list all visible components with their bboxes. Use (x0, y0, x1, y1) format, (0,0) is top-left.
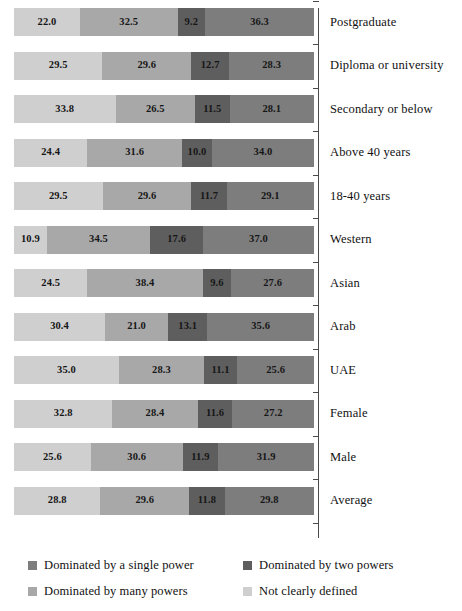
bar-segment-value: 37.0 (249, 234, 268, 245)
bar-segment: 28.3 (229, 52, 314, 80)
bar-segment-value: 24.5 (41, 278, 60, 289)
bar-row: 24.538.49.627.6 (14, 269, 314, 297)
legend-label: Dominated by many powers (44, 584, 188, 599)
bar-segment-value: 29.1 (261, 191, 280, 202)
bar-segment-value: 29.8 (260, 495, 279, 506)
bar-segment: 28.8 (14, 487, 100, 515)
bar-row: 29.529.611.729.1 (14, 182, 314, 210)
bar-row: 10.934.517.637.0 (14, 226, 314, 254)
bar-segment-value: 9.6 (210, 278, 223, 289)
bar-segment-value: 33.8 (55, 104, 74, 115)
bar-segment: 29.6 (103, 182, 192, 210)
bar-segment-value: 11.9 (191, 452, 209, 463)
bar-segment: 34.0 (212, 139, 314, 167)
legend-item[interactable]: Dominated by a single power (28, 556, 194, 574)
bar-segment: 38.4 (87, 269, 202, 297)
category-label: Arab (330, 313, 356, 341)
bar-segment: 31.9 (218, 443, 314, 471)
bar-segment-value: 29.6 (137, 60, 156, 71)
bar-segment: 24.5 (14, 269, 87, 297)
legend-item[interactable]: Dominated by many powers (28, 582, 188, 600)
category-label: Above 40 years (330, 139, 411, 167)
bar-segment-value: 35.6 (251, 321, 270, 332)
bar-segment: 29.5 (14, 52, 102, 80)
legend-swatch-icon (28, 587, 37, 596)
bar-segment-value: 11.5 (203, 104, 221, 115)
stacked-bar-chart: 22.032.59.236.329.529.612.728.333.826.51… (0, 0, 462, 611)
bar-segment-value: 11.6 (206, 408, 224, 419)
category-label: Male (330, 443, 356, 471)
bar-segment-value: 17.6 (167, 234, 186, 245)
bar-segment: 28.1 (230, 95, 314, 123)
bar-segment: 29.8 (225, 487, 314, 515)
bar-segment: 11.6 (198, 400, 233, 428)
axis-tick (313, 479, 319, 480)
bar-segment-value: 31.6 (125, 147, 144, 158)
bar-segment: 32.5 (80, 8, 178, 36)
bar-segment-value: 28.3 (152, 365, 171, 376)
bar-segment-value: 9.2 (185, 17, 198, 28)
axis-tick (313, 218, 319, 219)
axis-tick (313, 44, 319, 45)
category-label: Secondary or below (330, 95, 433, 123)
bar-segment: 13.1 (168, 313, 207, 341)
bar-segment-value: 29.6 (138, 191, 157, 202)
axis-tick (313, 305, 319, 306)
legend-item[interactable]: Dominated by two powers (243, 556, 394, 574)
bar-segment: 10.0 (182, 139, 212, 167)
legend-label: Dominated by two powers (259, 558, 394, 573)
axis-tick (313, 175, 319, 176)
bar-segment: 9.6 (203, 269, 232, 297)
bar-segment: 11.7 (191, 182, 226, 210)
bar-segment-value: 10.9 (21, 234, 40, 245)
bar-segment: 35.6 (207, 313, 314, 341)
bar-segment: 30.6 (91, 443, 183, 471)
axis-tick (313, 88, 319, 89)
category-label: Postgraduate (330, 8, 396, 36)
bar-segment-value: 28.3 (262, 60, 281, 71)
bar-segment: 26.5 (116, 95, 196, 123)
legend-item[interactable]: Not clearly defined (243, 582, 357, 600)
bar-segment: 29.1 (227, 182, 314, 210)
bar-segment: 25.6 (237, 356, 314, 384)
legend-swatch-icon (28, 561, 37, 570)
bar-row: 30.421.013.135.6 (14, 313, 314, 341)
bar-segment: 34.5 (47, 226, 151, 254)
bar-segment-value: 29.5 (49, 191, 68, 202)
bar-segment-value: 29.6 (135, 495, 154, 506)
category-label: Asian (330, 269, 360, 297)
bar-segment-value: 11.7 (200, 191, 218, 202)
bar-segment: 9.2 (178, 8, 206, 36)
bar-segment-value: 38.4 (136, 278, 155, 289)
bar-segment: 22.0 (14, 8, 80, 36)
bar-segment: 21.0 (105, 313, 168, 341)
bar-segment: 27.6 (231, 269, 314, 297)
bar-segment-value: 24.4 (41, 147, 60, 158)
axis-tick (313, 131, 319, 132)
bar-segment: 25.6 (14, 443, 91, 471)
bar-segment-value: 34.0 (254, 147, 273, 158)
category-label: Female (330, 400, 368, 428)
bar-segment-value: 11.8 (198, 495, 216, 506)
bar-segment-value: 12.7 (201, 60, 220, 71)
bar-segment: 11.8 (189, 487, 224, 515)
bar-segment-value: 11.1 (211, 365, 229, 376)
axis-tick (313, 392, 319, 393)
bar-segment-value: 10.0 (188, 147, 207, 158)
bar-row: 28.829.611.829.8 (14, 487, 314, 515)
bar-segment: 11.5 (195, 95, 230, 123)
bar-segment-value: 28.1 (262, 104, 281, 115)
bar-segment: 29.6 (100, 487, 189, 515)
bar-segment-value: 27.6 (263, 278, 282, 289)
category-label: 18-40 years (330, 182, 390, 210)
bar-segment-value: 30.4 (50, 321, 69, 332)
legend-label: Not clearly defined (259, 584, 357, 599)
bar-row: 35.028.311.125.6 (14, 356, 314, 384)
bar-segment: 37.0 (203, 226, 314, 254)
axis-tick (313, 436, 319, 437)
bar-segment: 11.1 (204, 356, 237, 384)
axis-tick (313, 262, 319, 263)
bar-row: 33.826.511.528.1 (14, 95, 314, 123)
axis-tick (313, 349, 319, 350)
bar-segment: 10.9 (14, 226, 47, 254)
